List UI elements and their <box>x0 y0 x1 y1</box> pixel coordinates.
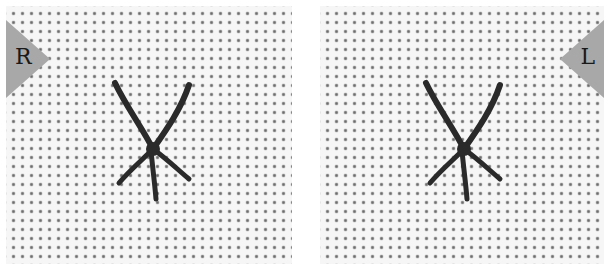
cross-stitch-icon <box>412 71 512 211</box>
side-label-l: L <box>580 46 595 68</box>
side-label-r: R <box>15 46 32 68</box>
fabric-panel-right-hand: R <box>6 6 292 264</box>
fabric-panel-left-hand: L <box>320 6 604 264</box>
cross-stitch-icon <box>101 71 201 211</box>
